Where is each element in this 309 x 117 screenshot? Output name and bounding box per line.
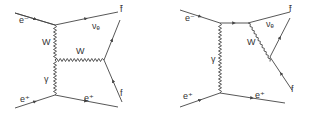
label-f-right: f: [291, 85, 294, 94]
label-e-minus: e⁻: [19, 16, 29, 25]
photon-line: [219, 23, 222, 93]
label-w-horizontal: W: [76, 47, 85, 56]
label-gamma-right: γ: [211, 55, 216, 64]
w-boson-horizontal: [55, 59, 104, 62]
label-nu-e-right: νₑ: [266, 20, 274, 29]
label-f: f: [120, 89, 123, 98]
label-e-plus-in: e⁺: [20, 95, 30, 104]
neutrino-line: [55, 12, 118, 25]
w-boson-vertical: [54, 25, 57, 60]
label-f-bar: f̄: [120, 5, 123, 14]
label-e-minus-right: e⁻: [185, 14, 195, 23]
antifermion-line: [104, 20, 120, 60]
right-diagram: [180, 10, 292, 107]
label-w-right: W: [247, 38, 256, 47]
label-f-bar-right: f̄: [289, 5, 292, 14]
photon-line: [54, 60, 57, 95]
label-e-plus-out: e⁺: [84, 94, 94, 103]
label-gamma: γ: [44, 75, 49, 84]
left-diagram: [15, 12, 122, 108]
label-e-plus-out-right: e⁺: [255, 91, 265, 100]
label-e-plus-in-right: e⁺: [183, 92, 193, 101]
label-w-vertical: W: [42, 38, 51, 47]
label-nu-e: νₑ: [92, 22, 100, 31]
